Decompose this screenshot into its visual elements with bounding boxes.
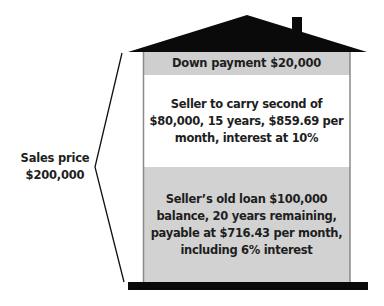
seller-old-loan-label: Seller’s old loan $100,000 balance, 20 y… xyxy=(143,167,350,283)
down-payment-label: Down payment $20,000 xyxy=(143,52,350,75)
seller-second-line-2: $80,000, 15 years, $859.69 per xyxy=(150,113,344,130)
seller-second-line-3: month, interest at 10% xyxy=(175,130,319,147)
sales-price-title: Sales price xyxy=(10,150,100,167)
seller-old-loan-line-2: balance, 20 years remaining, xyxy=(156,208,336,225)
foundation-bar xyxy=(128,282,368,290)
seller-old-loan-line-1: Seller’s old loan $100,000 xyxy=(166,191,328,208)
sales-price-label: Sales price $200,000 xyxy=(10,150,100,184)
roof-icon xyxy=(128,15,367,52)
sales-price-value: $200,000 xyxy=(10,167,100,184)
seller-second-label: Seller to carry second of $80,000, 15 ye… xyxy=(143,75,350,167)
seller-old-loan-line-3: payable at $716.43 per month, xyxy=(151,225,343,242)
seller-old-loan-line-4: including 6% interest xyxy=(180,242,312,259)
seller-second-line-1: Seller to carry second of xyxy=(171,96,322,113)
